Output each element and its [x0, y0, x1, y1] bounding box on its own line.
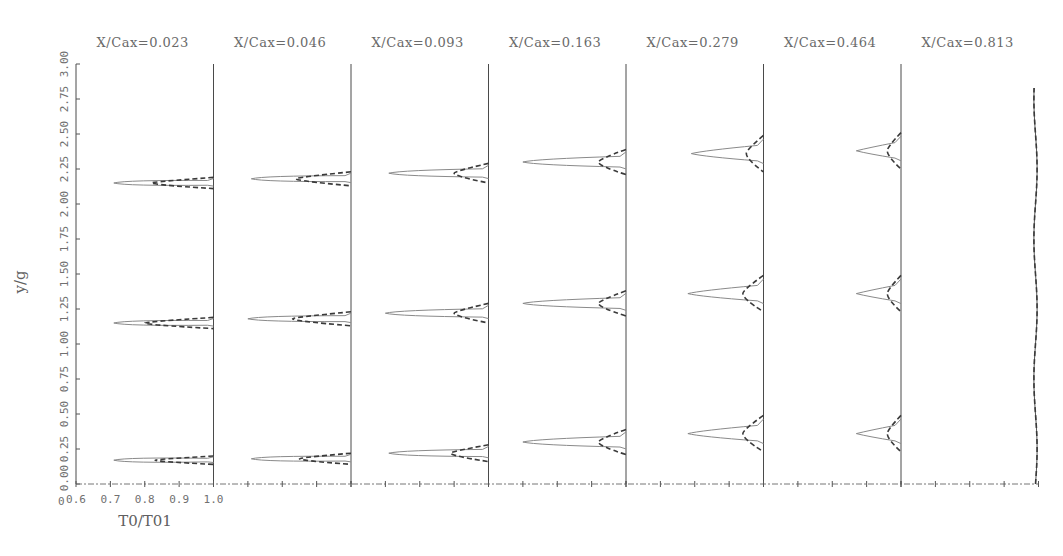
y-tick-label: 0.50	[58, 401, 71, 428]
chart-canvas: X/Cax=0.023X/Cax=0.046X/Cax=0.093X/Cax=0…	[0, 0, 1063, 556]
dashed-profile	[743, 415, 764, 451]
panel-4	[688, 64, 764, 484]
y-tick-label: 2.00	[58, 191, 71, 218]
solid-profile	[523, 432, 626, 449]
y-axis-label: y/g	[11, 270, 29, 295]
solid-profile	[688, 419, 764, 444]
panel-title: X/Cax=0.163	[509, 35, 601, 50]
solid-profile	[389, 446, 489, 457]
panel-0	[114, 64, 214, 484]
dashed-profile	[152, 177, 214, 188]
x-tick-label: 0.8	[135, 493, 155, 506]
origin-label: 0	[58, 495, 65, 508]
y-tick-label: 2.25	[58, 156, 71, 183]
panel-title: X/Cax=0.093	[372, 35, 464, 50]
panel-3	[523, 64, 626, 484]
y-tick-label: 1.00	[58, 331, 71, 358]
y-tick-label: 1.75	[58, 226, 71, 253]
dashed-profile	[293, 312, 351, 326]
x-tick-label: 1.0	[204, 493, 224, 506]
solid-profile	[389, 165, 489, 178]
y-tick-label: 0.75	[58, 366, 71, 393]
dashed-profile	[451, 445, 489, 462]
panel-title: X/Cax=0.046	[234, 35, 326, 50]
y-tick-label: 1.50	[58, 261, 71, 288]
solid-profile	[691, 139, 763, 164]
panel-titles: X/Cax=0.023X/Cax=0.046X/Cax=0.093X/Cax=0…	[97, 35, 1014, 50]
x-tick-label: 0.6	[66, 493, 86, 506]
solid-profile	[385, 305, 488, 318]
panels	[114, 64, 1037, 484]
x-tick-label: 0.9	[169, 493, 189, 506]
x-axis-label: T0/T01	[118, 512, 172, 530]
y-axis: 0.000.250.500.751.001.251.501.752.002.25…	[58, 51, 80, 492]
y-tick-label: 0.00	[58, 465, 71, 492]
y-tick-label: 0.25	[58, 436, 71, 463]
x-tick-label: 0.7	[100, 493, 120, 506]
dashed-profile	[599, 291, 627, 316]
y-tick-label: 1.25	[58, 296, 71, 323]
dashed-profile	[299, 453, 351, 464]
solid-profile	[688, 279, 764, 304]
y-tick-label: 3.00	[58, 51, 71, 78]
panel-title: X/Cax=0.464	[784, 35, 876, 50]
y-tick-label: 2.50	[58, 121, 71, 148]
dashed-profile	[599, 149, 627, 174]
dashed-profile	[155, 456, 213, 464]
panel-title: X/Cax=0.813	[922, 35, 1014, 50]
y-tick-label: 2.75	[58, 86, 71, 113]
solid-profile	[523, 152, 626, 169]
dashed-profile	[454, 163, 488, 183]
dashed-profile	[454, 303, 488, 323]
dashed-profile	[145, 317, 214, 328]
panel-1	[248, 64, 351, 484]
panel-5	[856, 64, 901, 484]
dashed-profile	[599, 429, 627, 454]
panel-6	[1034, 88, 1037, 484]
panel-2	[385, 64, 488, 484]
panel-title: X/Cax=0.023	[97, 35, 189, 50]
x-axis: 0.60.70.80.91.0	[66, 481, 1038, 506]
panel-title: X/Cax=0.279	[647, 35, 739, 50]
dashed-profile	[743, 275, 764, 311]
solid-profile	[523, 293, 626, 310]
dashed-profile	[296, 172, 351, 186]
dashed-profile	[746, 135, 763, 171]
